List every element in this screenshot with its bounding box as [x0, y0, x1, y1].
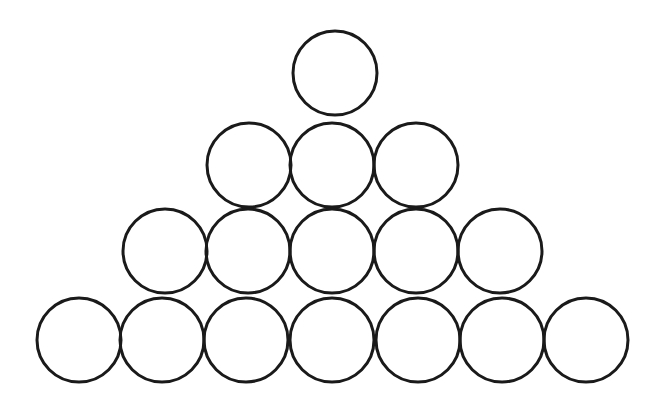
circle-row3-item5: [458, 209, 542, 293]
circle-row3-item1: [123, 209, 207, 293]
circle-pyramid-figure: [0, 0, 666, 409]
circle-row-3: [123, 209, 542, 293]
circle-row4-item2: [120, 298, 204, 382]
circle-row4-item5: [376, 298, 460, 382]
circle-row3-item4: [374, 209, 458, 293]
circle-row3-item2: [206, 209, 290, 293]
circle-row-1: [293, 31, 377, 115]
circle-group: [37, 31, 628, 382]
circle-row4-item7: [544, 298, 628, 382]
circle-row3-item3: [290, 209, 374, 293]
circle-row2-item2: [290, 123, 374, 207]
circle-row2-item1: [207, 123, 291, 207]
circle-row1-item1: [293, 31, 377, 115]
circle-row4-item4: [290, 298, 374, 382]
circle-row-4: [37, 298, 628, 382]
circle-row4-item3: [204, 298, 288, 382]
circle-row4-item6: [460, 298, 544, 382]
circle-row2-item3: [374, 123, 458, 207]
circle-pyramid-canvas: [0, 0, 666, 409]
circle-row-2: [207, 123, 458, 207]
circle-row4-item1: [37, 298, 121, 382]
